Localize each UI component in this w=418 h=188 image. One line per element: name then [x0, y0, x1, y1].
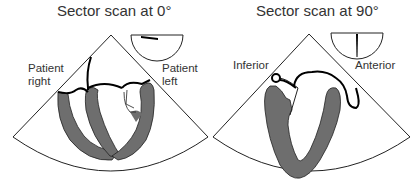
- label-patient-right: Patient right: [28, 62, 64, 88]
- label-anterior: Anterior: [355, 59, 395, 72]
- label-patient-left: Patient left: [162, 62, 198, 88]
- sector-90-deg: [213, 33, 410, 178]
- panel-title-0-deg: Sector scan at 0°: [57, 2, 171, 19]
- label-inferior: Inferior: [233, 59, 269, 72]
- panel-title-90-deg: Sector scan at 90°: [256, 2, 379, 19]
- sector-0-deg: [13, 35, 208, 171]
- orientation-icon-horizontal: [131, 35, 183, 61]
- diagram-canvas: [0, 0, 418, 188]
- orientation-icon-vertical: [331, 33, 383, 59]
